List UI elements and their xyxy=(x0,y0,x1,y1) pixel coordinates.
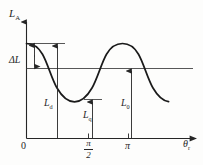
x-tick-label-pi: π xyxy=(125,141,130,151)
x-axis-label-sub: r xyxy=(188,144,190,151)
chart-canvas xyxy=(0,0,203,165)
lq-label: Lq xyxy=(83,110,92,122)
inductance-curve xyxy=(27,44,169,102)
x-tick-label-origin: 0 xyxy=(21,141,26,151)
l0-label-sub: 0 xyxy=(127,103,130,110)
pi-over-2-numerator: π xyxy=(84,139,93,148)
y-axis-label: LA xyxy=(9,8,20,22)
lq-label-sub: q xyxy=(89,115,92,122)
inductance-angle-figure: LA ΔL Ld Lq L0 0 π 2 π θr xyxy=(0,0,203,165)
ld-label-sub: d xyxy=(50,103,53,110)
x-tick-label-pi-over-2: π 2 xyxy=(84,139,93,160)
pi-over-2-denominator: 2 xyxy=(84,151,93,160)
delta-l-text: ΔL xyxy=(9,54,20,65)
l0-label: L0 xyxy=(121,98,130,110)
delta-l-label: ΔL xyxy=(9,55,20,65)
y-axis-label-sub: A xyxy=(15,14,20,21)
ld-label: Ld xyxy=(44,98,53,110)
x-axis-label: θr xyxy=(183,139,190,151)
